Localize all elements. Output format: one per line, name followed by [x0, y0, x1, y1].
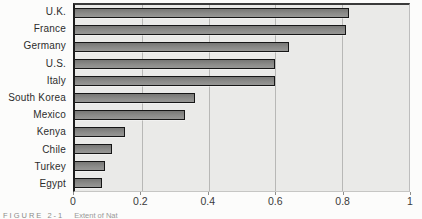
bar-row	[75, 123, 409, 140]
category-label: U.S.	[0, 55, 70, 72]
bar-row	[75, 106, 409, 123]
x-tick-label: 0.8	[335, 195, 350, 207]
category-label: Italy	[0, 72, 70, 89]
bar	[75, 127, 125, 137]
category-label: Germany	[0, 37, 70, 54]
bar	[75, 42, 289, 52]
bar	[75, 110, 185, 120]
bar-row	[75, 73, 409, 90]
x-tick-label: 0.2	[133, 195, 148, 207]
bar-row	[75, 90, 409, 107]
x-tick-label: 0.4	[200, 195, 215, 207]
bar	[75, 93, 195, 103]
bar-chart-figure: U.K.FranceGermanyU.S.ItalySouth KoreaMex…	[0, 0, 422, 219]
category-label: South Korea	[0, 89, 70, 106]
category-label: Kenya	[0, 123, 70, 140]
bar	[75, 25, 346, 35]
category-axis: U.K.FranceGermanyU.S.ItalySouth KoreaMex…	[0, 3, 70, 192]
bar-row	[75, 56, 409, 73]
x-axis: 00.20.40.60.81	[73, 192, 410, 208]
x-tick-label: 0	[70, 195, 76, 207]
bar-rows	[75, 5, 409, 191]
bar-row	[75, 174, 409, 191]
category-label: U.K.	[0, 3, 70, 20]
figure-caption-number: FIGURE 2-1	[3, 211, 64, 219]
bar	[75, 76, 275, 86]
category-label: Mexico	[0, 106, 70, 123]
category-label: Egypt	[0, 175, 70, 192]
bar-row	[75, 5, 409, 22]
x-tick-label: 0.6	[268, 195, 283, 207]
bar	[75, 8, 349, 18]
bar	[75, 178, 102, 188]
category-label: Chile	[0, 141, 70, 158]
bar	[75, 59, 275, 69]
category-label: Turkey	[0, 158, 70, 175]
bar-row	[75, 22, 409, 39]
figure-caption-text: Extent of Nat	[74, 211, 117, 219]
bar-row	[75, 157, 409, 174]
category-label: France	[0, 20, 70, 37]
plot-area	[73, 3, 410, 192]
bar	[75, 161, 105, 171]
bar-row	[75, 140, 409, 157]
bar-row	[75, 39, 409, 56]
bar	[75, 144, 112, 154]
x-tick-label: 1	[407, 195, 413, 207]
figure-caption: FIGURE 2-1Extent of Nat	[3, 211, 118, 219]
